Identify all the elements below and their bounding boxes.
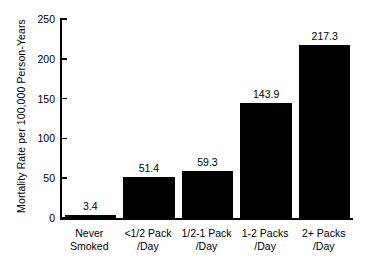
y-axis-tick-label: 200 [0, 52, 55, 66]
y-axis-tick-label: 100 [0, 131, 55, 145]
bar [65, 215, 117, 219]
y-axis-tick-mark [60, 18, 67, 20]
bar-value-label: 217.3 [287, 30, 363, 43]
y-axis-tick-label: 0 [0, 211, 55, 225]
y-axis-tick-label: 250 [0, 12, 55, 26]
y-axis-tick-mark [60, 98, 67, 100]
y-axis-tick-label: 150 [0, 92, 55, 106]
x-axis-category-label-line: 2+ Packs [285, 227, 362, 240]
x-axis-category-label-line: /Day [285, 240, 362, 253]
y-axis-tick-mark [60, 138, 67, 140]
y-axis-tick-mark [60, 58, 67, 60]
y-axis-tick-label: 50 [0, 171, 55, 185]
bar [299, 45, 351, 218]
x-axis-spine [60, 218, 353, 220]
bar-value-label: 3.4 [53, 200, 129, 213]
bar [182, 171, 234, 218]
bar-value-label: 59.3 [170, 156, 246, 169]
bar [123, 177, 175, 218]
y-axis-tick-mark [60, 177, 67, 179]
bar [240, 103, 292, 218]
y-axis-title: Mortality Rate per 100,000 Person-Years [14, 16, 28, 216]
bar-value-label: 143.9 [228, 88, 304, 101]
y-axis-spine [60, 19, 62, 219]
bar-chart-figure: Mortality Rate per 100,000 Person-Years … [0, 0, 370, 267]
x-axis-category-label: 2+ Packs/Day [285, 227, 362, 252]
